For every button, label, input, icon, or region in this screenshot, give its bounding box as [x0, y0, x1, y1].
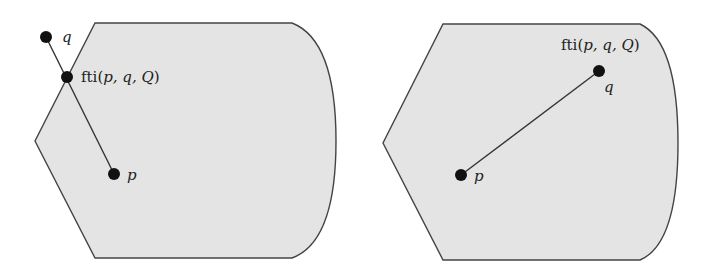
right-label-fti: fti(p, q, Q) [561, 36, 640, 54]
right-fti-args: p, q, Q [583, 36, 634, 54]
left-fti-args: p, q, Q [103, 68, 154, 86]
left-point-p [108, 168, 120, 180]
right-region-q [383, 24, 678, 260]
left-point-fti [61, 71, 73, 83]
left-point-q [40, 31, 52, 43]
left-region-q [35, 23, 336, 258]
right-point-p [455, 169, 467, 181]
right-fti-prefix: fti( [561, 36, 583, 54]
left-label-q: q [62, 28, 72, 46]
left-fti-suffix: ) [154, 68, 160, 86]
right-label-p: p [474, 167, 484, 185]
diagram-canvas: q fti(p, q, Q) p fti(p, q, Q) q p [0, 0, 709, 278]
right-fti-suffix: ) [634, 36, 640, 54]
left-label-p: p [127, 166, 137, 184]
left-label-fti: fti(p, q, Q) [81, 68, 160, 86]
right-label-q: q [604, 78, 614, 96]
left-panel: q fti(p, q, Q) p [35, 23, 336, 258]
right-point-q-fti [593, 65, 605, 77]
left-fti-prefix: fti( [81, 68, 103, 86]
right-panel: fti(p, q, Q) q p [383, 24, 678, 260]
